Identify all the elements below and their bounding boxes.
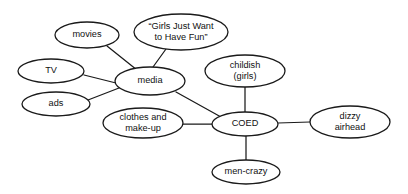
- node-movies[interactable]: movies: [55, 22, 119, 48]
- node-label-childish: (girls): [234, 71, 257, 81]
- node-label-childish: childish: [230, 60, 261, 70]
- node-label-quote: “Girls Just Want: [149, 21, 214, 31]
- edge-media-to-coed: [176, 92, 221, 117]
- node-media[interactable]: media: [115, 67, 185, 95]
- edge-tv-to-media: [84, 75, 116, 83]
- node-label-mencrazy: men-crazy: [225, 166, 268, 176]
- node-dizzy[interactable]: dizzyairhead: [310, 106, 390, 138]
- node-tv[interactable]: TV: [18, 59, 84, 83]
- node-label-media: media: [137, 75, 163, 85]
- node-coed[interactable]: COED: [212, 112, 278, 136]
- node-label-coed: COED: [232, 118, 259, 128]
- graph-canvas: movies“Girls Just Wantto Have Fun”TVmedi…: [0, 0, 408, 194]
- node-quote[interactable]: “Girls Just Wantto Have Fun”: [134, 14, 228, 50]
- nodes-group: movies“Girls Just Wantto Have Fun”TVmedi…: [18, 14, 390, 184]
- node-label-movies: movies: [72, 29, 102, 39]
- node-clothes[interactable]: clothes andmake-up: [103, 108, 183, 138]
- node-label-quote: to Have Fun”: [154, 32, 207, 42]
- node-label-dizzy: dizzy: [340, 111, 361, 121]
- edge-coed-to-dizzy: [278, 122, 310, 123]
- node-childish[interactable]: childish(girls): [205, 55, 285, 87]
- node-label-tv: TV: [45, 65, 58, 75]
- edge-movies-to-media: [107, 46, 137, 70]
- node-mencrazy[interactable]: men-crazy: [212, 160, 280, 184]
- node-label-clothes: clothes and: [120, 112, 167, 122]
- node-label-ads: ads: [49, 98, 64, 108]
- concept-map-diagram: movies“Girls Just Wantto Have Fun”TVmedi…: [0, 0, 408, 194]
- node-label-clothes: make-up: [125, 123, 161, 133]
- edge-quote-to-media: [153, 49, 166, 67]
- node-ads[interactable]: ads: [22, 92, 90, 116]
- edge-ads-to-media: [88, 88, 119, 100]
- node-label-dizzy: airhead: [335, 122, 366, 132]
